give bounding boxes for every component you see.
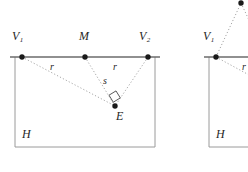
point-m-left bbox=[82, 54, 87, 59]
label-h-right: H bbox=[216, 128, 225, 140]
label-s-segment: s bbox=[103, 76, 107, 86]
point-v1-right bbox=[213, 54, 218, 59]
label-v1-right: V1 bbox=[203, 30, 214, 44]
label-r-right-segment: r bbox=[113, 62, 117, 72]
right-dotted-apex-descending bbox=[241, 3, 248, 48]
point-apex-right bbox=[238, 0, 243, 5]
right-dotted-v1-to-apex bbox=[216, 3, 241, 57]
label-r-left-segment: r bbox=[50, 62, 54, 72]
label-v2-left: V2 bbox=[139, 30, 150, 44]
label-v1-left: V1 bbox=[12, 30, 23, 44]
right-angle-marker-icon bbox=[109, 91, 120, 102]
left-dotted-m-to-e bbox=[85, 57, 115, 106]
left-ground-plane-box bbox=[15, 57, 155, 147]
label-m-left: M bbox=[79, 30, 89, 42]
label-r-right-diagram: r bbox=[242, 62, 246, 72]
point-v1-left bbox=[19, 54, 24, 59]
left-dotted-v1-to-e bbox=[22, 57, 115, 106]
label-v2-left-subscript: 2 bbox=[146, 36, 150, 44]
geometry-diagram-svg bbox=[0, 0, 248, 172]
point-e-left bbox=[112, 103, 117, 108]
label-h-left: H bbox=[22, 128, 31, 140]
label-v1-right-subscript: 1 bbox=[210, 36, 214, 44]
label-e-left: E bbox=[116, 110, 123, 122]
point-v2-left bbox=[145, 54, 150, 59]
figure-canvas: V1 M V2 r r s E H V1 r H bbox=[0, 0, 248, 172]
label-v1-left-subscript: 1 bbox=[19, 36, 23, 44]
